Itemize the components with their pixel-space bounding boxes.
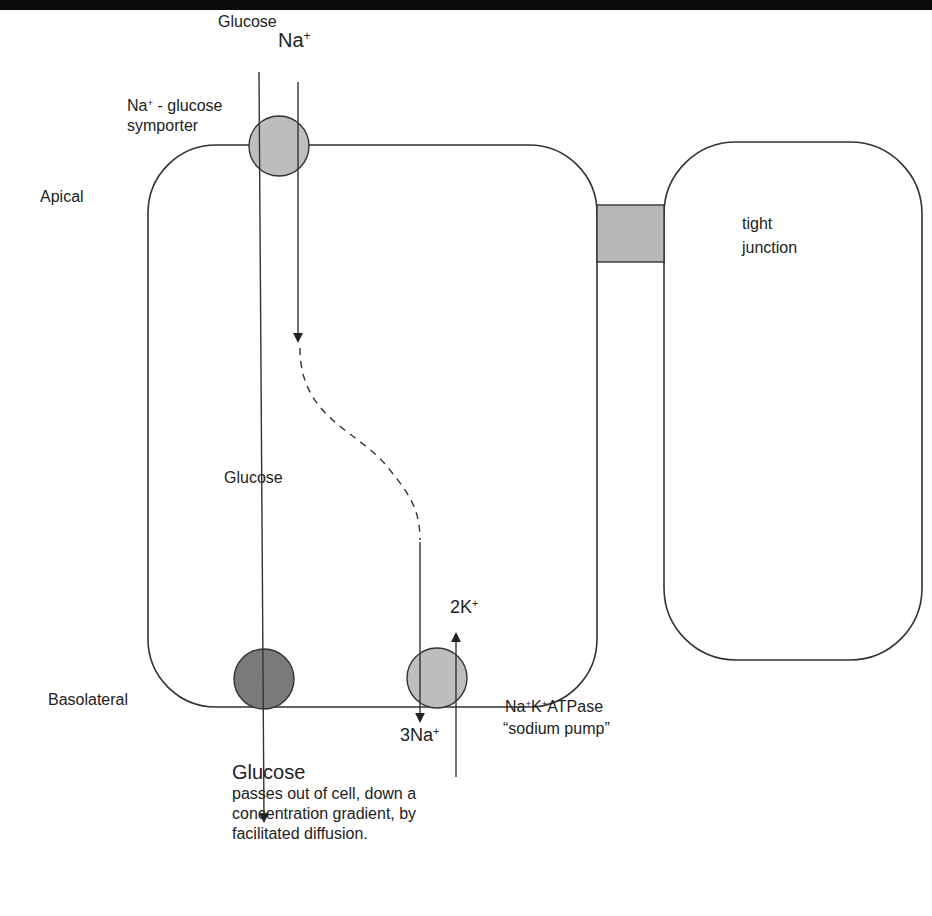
- potassium-ion-charge: +: [472, 597, 478, 609]
- symporter-label-line2: symporter: [127, 116, 198, 135]
- symporter-na-text: Na: [127, 97, 147, 114]
- sodium-ion-text: 3Na: [400, 725, 433, 745]
- glucose-mid-label: Glucose: [224, 468, 283, 487]
- sodium-pump-label-line2: “sodium pump”: [503, 719, 610, 738]
- pump-k-text: K: [531, 698, 542, 715]
- sodium-ion-label: 3Na+: [400, 725, 439, 747]
- left-cell-membrane: [148, 145, 597, 707]
- pump-na-text: Na: [505, 698, 525, 715]
- symporter-circle: [249, 116, 309, 176]
- pump-atpase-text: ATPase: [547, 698, 603, 715]
- symporter-glucose-text: - glucose: [153, 97, 222, 114]
- basolateral-label: Basolateral: [48, 690, 128, 709]
- tight-junction-label-line2: junction: [742, 238, 797, 257]
- sodium-top-label: Na+: [278, 28, 311, 52]
- glucose-bottom-description: passes out of cell, down a concentration…: [232, 784, 432, 844]
- tight-junction-label-line1: tight: [742, 214, 772, 233]
- sodium-diffusion-dashed-curve: [300, 348, 420, 540]
- potassium-ion-text: 2K: [450, 597, 472, 617]
- sodium-top-text: Na: [278, 29, 304, 51]
- apical-label: Apical: [40, 187, 84, 206]
- symporter-label-line1: Na+ - glucose: [127, 96, 222, 115]
- sodium-pump-circle: [407, 648, 467, 708]
- glucose-carrier-circle: [234, 649, 294, 709]
- sodium-ion-charge: +: [433, 725, 439, 737]
- right-cell-membrane: [664, 142, 922, 660]
- epithelial-cell-diagram: [0, 0, 932, 916]
- sodium-pump-label-line1: Na+K+ATPase: [505, 697, 603, 716]
- sodium-top-charge: +: [304, 29, 311, 43]
- tight-junction-block: [597, 205, 664, 262]
- glucose-top-label: Glucose: [218, 12, 277, 31]
- glucose-bottom-label: Glucose: [232, 760, 305, 784]
- potassium-ion-label: 2K+: [450, 597, 478, 619]
